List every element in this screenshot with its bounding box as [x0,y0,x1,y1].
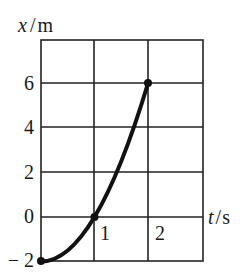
point-t0 [37,257,45,265]
plot-border [41,40,203,261]
y-tick-4: 4 [24,116,34,138]
y-tick-2: 2 [24,161,34,183]
grid [41,40,203,261]
chart-svg: x/m 6 4 2 0 − 2 1 2 t/s [0,0,242,276]
point-t1 [91,213,99,221]
y-tick-neg2: − 2 [8,249,34,271]
y-tick-6: 6 [24,72,34,94]
x-tick-1: 1 [100,222,110,244]
x-tick-2: 2 [155,222,165,244]
y-axis-label: x/m [17,14,53,36]
y-tick-0: 0 [24,205,34,227]
x-axis-label: t/s [208,206,230,228]
point-t2 [144,79,152,87]
